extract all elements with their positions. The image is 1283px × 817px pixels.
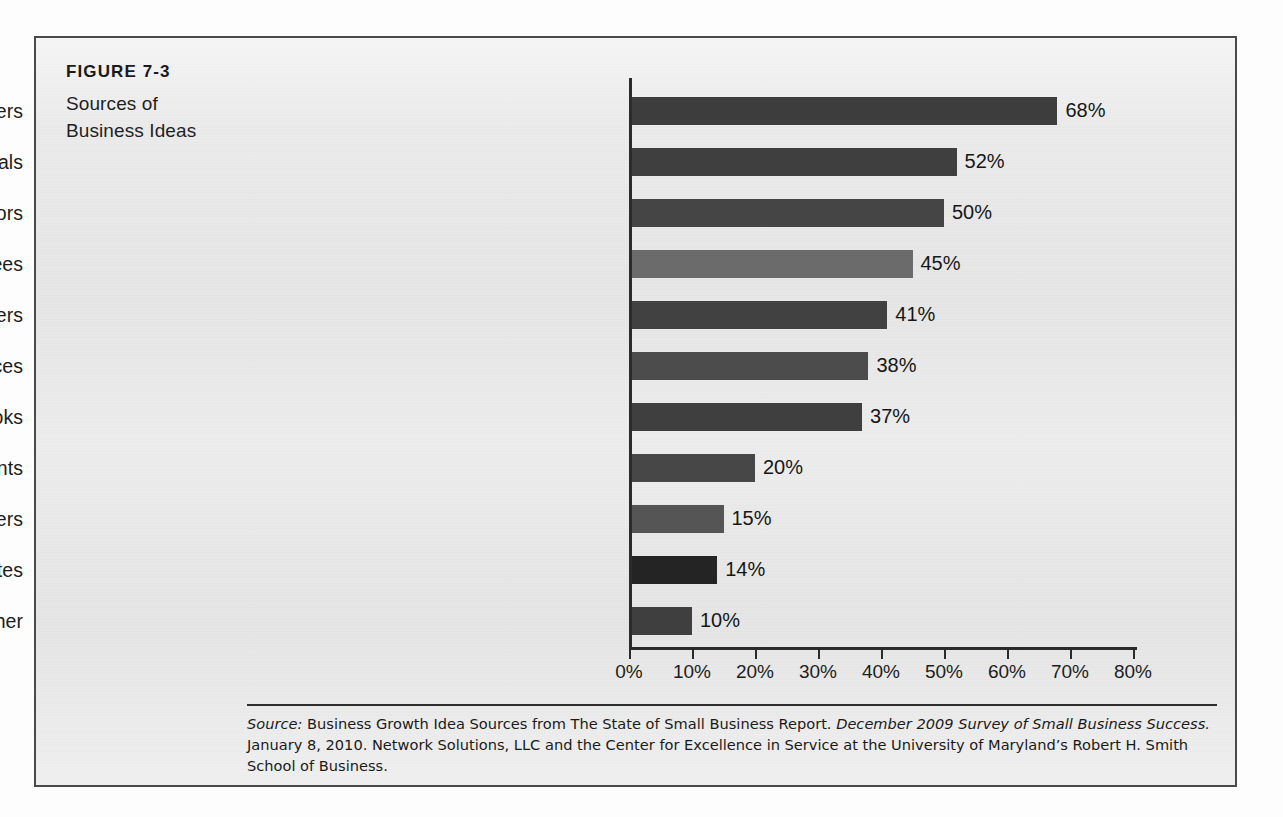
bar bbox=[629, 250, 913, 278]
bar-group: 38% bbox=[629, 352, 916, 380]
bar bbox=[629, 454, 755, 482]
x-axis-tick-label: 10% bbox=[673, 661, 711, 683]
bar-category-label: Other bbox=[0, 609, 36, 632]
bar-value-label: 50% bbox=[952, 201, 992, 224]
bar-group: 45% bbox=[629, 250, 961, 278]
bar bbox=[629, 505, 724, 533]
figure-number: FIGURE 7-3 bbox=[66, 62, 296, 82]
bar-category-label: Conferences bbox=[0, 354, 36, 377]
bar-value-label: 52% bbox=[965, 150, 1005, 173]
bar-group: 15% bbox=[629, 505, 772, 533]
bar bbox=[629, 97, 1057, 125]
bar-track: 14% bbox=[629, 544, 1235, 595]
bar-category-label: Suppliers bbox=[0, 303, 36, 326]
bar-value-label: 41% bbox=[895, 303, 935, 326]
bar-value-label: 20% bbox=[763, 456, 803, 479]
x-axis-tick-label: 0% bbox=[615, 661, 642, 683]
source-label: Source: bbox=[247, 715, 302, 732]
bar bbox=[629, 352, 868, 380]
bar-group: 37% bbox=[629, 403, 910, 431]
x-axis-tick-label: 20% bbox=[736, 661, 774, 683]
x-axis-tick-label: 80% bbox=[1114, 661, 1152, 683]
bar-group: 10% bbox=[629, 607, 740, 635]
bar-category-label: Customers bbox=[0, 99, 36, 122]
bar bbox=[629, 607, 692, 635]
bar-value-label: 68% bbox=[1065, 99, 1105, 122]
bar-row: Competitors50% bbox=[36, 187, 1235, 238]
x-axis-tick-label: 30% bbox=[799, 661, 837, 683]
bar bbox=[629, 301, 887, 329]
bar bbox=[629, 556, 717, 584]
bar-value-label: 14% bbox=[725, 558, 765, 581]
bar-group: 50% bbox=[629, 199, 992, 227]
bar-row: Conferences38% bbox=[36, 340, 1235, 391]
bar-value-label: 45% bbox=[921, 252, 961, 275]
bar-value-label: 38% bbox=[876, 354, 916, 377]
x-axis-tick bbox=[1070, 650, 1072, 659]
bar-value-label: 37% bbox=[870, 405, 910, 428]
x-axis-tick-label: 40% bbox=[862, 661, 900, 683]
bar-category-label: Books bbox=[0, 405, 36, 428]
bar-row: Blogs or online newsletters15% bbox=[36, 493, 1235, 544]
bar-group: 68% bbox=[629, 97, 1105, 125]
bar-row: Books37% bbox=[36, 391, 1235, 442]
bar-rows: Customers68%Newspapers and trade journal… bbox=[36, 85, 1235, 646]
bar-chart: Customers68%Newspapers and trade journal… bbox=[36, 38, 1235, 785]
bar-category-label: Employees bbox=[0, 252, 36, 275]
figure-title-line-2: Business Ideas bbox=[66, 118, 296, 145]
figure-caption: FIGURE 7-3 Sources of Business Ideas bbox=[66, 62, 296, 145]
bar-row: Social-networking sites14% bbox=[36, 544, 1235, 595]
source-divider bbox=[247, 704, 1217, 706]
figure-title-line-1: Sources of bbox=[66, 91, 296, 118]
bar-row: Suppliers41% bbox=[36, 289, 1235, 340]
bar-row: Employees45% bbox=[36, 238, 1235, 289]
bar-track: 37% bbox=[629, 391, 1235, 442]
bar-group: 41% bbox=[629, 301, 935, 329]
bar-group: 14% bbox=[629, 556, 765, 584]
bar-track: 41% bbox=[629, 289, 1235, 340]
bar-row: Consultants20% bbox=[36, 442, 1235, 493]
source-publication-title: December 2009 Survey of Small Business S… bbox=[836, 715, 1210, 732]
bar-track: 38% bbox=[629, 340, 1235, 391]
scanned-page: FIGURE 7-3 Sources of Business Ideas Cus… bbox=[0, 0, 1283, 817]
bar-track: 10% bbox=[629, 595, 1235, 646]
bar-category-label: Newspapers and trade journals bbox=[0, 150, 36, 173]
source-note: Source: Business Growth Idea Sources fro… bbox=[247, 714, 1219, 777]
x-axis-tick bbox=[881, 650, 883, 659]
bar-value-label: 10% bbox=[700, 609, 740, 632]
x-axis-tick bbox=[818, 650, 820, 659]
bar-row: Other10% bbox=[36, 595, 1235, 646]
bar-value-label: 15% bbox=[732, 507, 772, 530]
x-axis-line bbox=[629, 647, 1137, 650]
x-axis-tick bbox=[1133, 650, 1135, 659]
x-axis-tick bbox=[692, 650, 694, 659]
bar-track: 45% bbox=[629, 238, 1235, 289]
x-axis-tick-label: 70% bbox=[1051, 661, 1089, 683]
bar-group: 20% bbox=[629, 454, 803, 482]
bar bbox=[629, 199, 944, 227]
x-axis-tick bbox=[629, 650, 631, 659]
y-axis-line bbox=[629, 78, 632, 649]
bar-category-label: Blogs or online newsletters bbox=[0, 507, 36, 530]
bar-track: 52% bbox=[629, 136, 1235, 187]
figure-frame: FIGURE 7-3 Sources of Business Ideas Cus… bbox=[34, 36, 1237, 787]
bar bbox=[629, 148, 957, 176]
bar-category-label: Social-networking sites bbox=[0, 558, 36, 581]
bar-track: 15% bbox=[629, 493, 1235, 544]
x-axis-tick bbox=[944, 650, 946, 659]
x-axis-tick-label: 60% bbox=[988, 661, 1026, 683]
bar-group: 52% bbox=[629, 148, 1005, 176]
x-axis-tick-label: 50% bbox=[925, 661, 963, 683]
x-axis-tick bbox=[1007, 650, 1009, 659]
x-axis-tick bbox=[755, 650, 757, 659]
bar-category-label: Competitors bbox=[0, 201, 36, 224]
bar-category-label: Consultants bbox=[0, 456, 36, 479]
bar-track: 68% bbox=[629, 85, 1235, 136]
bar bbox=[629, 403, 862, 431]
bar-track: 20% bbox=[629, 442, 1235, 493]
bar-track: 50% bbox=[629, 187, 1235, 238]
